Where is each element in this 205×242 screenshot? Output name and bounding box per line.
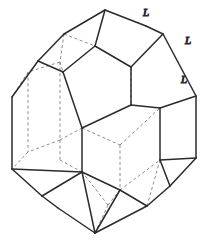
crystal-diagram-container: LLL	[0, 0, 205, 242]
label-L-2: L	[184, 34, 191, 46]
label-L-1: L	[142, 6, 149, 18]
diagram-background	[0, 0, 205, 242]
crystal-polyhedron-svg: LLL	[0, 0, 205, 242]
label-L-3: L	[180, 73, 187, 85]
